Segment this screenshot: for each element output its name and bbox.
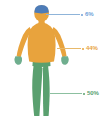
callout-head-marker	[81, 14, 83, 16]
callout-torso-leader-line	[57, 48, 81, 49]
callout-head-label: 6%	[85, 11, 93, 18]
callout-legs: 50%	[50, 90, 99, 97]
callout-head: 6%	[46, 11, 93, 18]
callout-torso-marker	[82, 48, 84, 50]
torso-group	[28, 22, 56, 63]
callout-legs-marker	[83, 93, 85, 95]
callout-legs-label: 50%	[87, 90, 99, 97]
callout-torso-label: 44%	[86, 45, 98, 52]
human-body-illustration	[0, 0, 107, 122]
callout-head-leader-line	[46, 14, 80, 15]
callout-legs-leader-line	[50, 93, 82, 94]
body-percentage-figure: 6% 44% 50%	[0, 0, 107, 122]
callout-torso: 44%	[57, 45, 98, 52]
legs-group	[32, 58, 50, 116]
